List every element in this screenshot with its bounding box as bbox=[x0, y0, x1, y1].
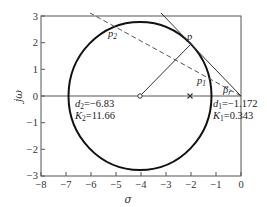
y-tick-label: 2 bbox=[33, 37, 38, 48]
y-ticks bbox=[41, 16, 45, 176]
point-p-label: p bbox=[186, 31, 192, 42]
dashed-line bbox=[90, 13, 241, 96]
x-tick-label: 0 bbox=[238, 179, 243, 190]
y-tick-labels: 3 2 1 0 −1 −2 −3 bbox=[27, 11, 38, 182]
x-tick-label: −2 bbox=[185, 179, 196, 190]
y-tick-label: −3 bbox=[27, 170, 38, 181]
x-tick-labels: −8 −7 −6 −5 −4 −3 −2 −1 0 bbox=[35, 179, 243, 190]
root-locus-figure: −8 −7 −6 −5 −4 −3 −2 −1 0 3 2 1 0 −1 −2 … bbox=[0, 0, 267, 207]
x-tick-label: −3 bbox=[160, 179, 171, 190]
x-tick-label: −5 bbox=[110, 179, 121, 190]
y-tick-label: 0 bbox=[33, 91, 38, 102]
y-axis-label: jω bbox=[12, 90, 24, 104]
point-p2-label: p2 bbox=[107, 28, 117, 41]
x-axis-label: σ bbox=[124, 193, 132, 205]
x-tick-label: −1 bbox=[210, 179, 221, 190]
x-tick-label: −7 bbox=[60, 179, 71, 190]
x-tick-label: −6 bbox=[85, 179, 96, 190]
beta-angle-label: βr bbox=[222, 84, 231, 97]
k2-annotation: K2=11.66 bbox=[74, 110, 115, 123]
y-tick-label: 1 bbox=[33, 64, 38, 75]
y-tick-label: 3 bbox=[33, 11, 38, 22]
y-tick-label: −2 bbox=[27, 144, 38, 155]
zero-marker-icon bbox=[138, 94, 142, 98]
k1-annotation: K1=0.343 bbox=[212, 110, 253, 123]
y-tick-label: −1 bbox=[27, 117, 38, 128]
radius-line bbox=[140, 44, 191, 96]
x-tick-label: −4 bbox=[135, 179, 147, 190]
x-ticks bbox=[41, 172, 241, 176]
point-p1-label: p1 bbox=[196, 75, 206, 88]
